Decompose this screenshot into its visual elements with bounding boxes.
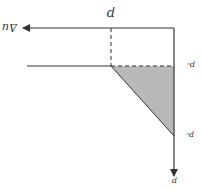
label-top-axis: Δu	[2, 21, 18, 34]
label-upper-right: pₑ	[187, 61, 195, 70]
label-lower-right: pₛ	[186, 131, 194, 140]
diagram-canvas: Δu p pₑ pₛ p	[0, 0, 202, 189]
label-top-marker: p	[106, 7, 115, 22]
label-bottom-axis: p	[172, 177, 177, 186]
